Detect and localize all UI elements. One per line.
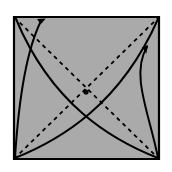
figure-container: [0, 0, 172, 172]
square-face: [14, 17, 159, 159]
center-dot: [83, 89, 88, 94]
square-diagram-svg: [0, 0, 172, 172]
